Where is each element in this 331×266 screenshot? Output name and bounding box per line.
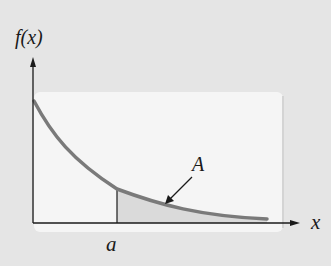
y-axis-label: f(x) <box>15 27 43 47</box>
diagram-canvas: f(x) x a A <box>0 0 331 266</box>
y-axis-arrow-icon <box>30 57 36 67</box>
area-label: A <box>192 154 204 174</box>
x-axis-arrow-icon <box>290 220 300 226</box>
x-axis-label: x <box>311 212 320 233</box>
a-marker-label: a <box>106 234 117 255</box>
